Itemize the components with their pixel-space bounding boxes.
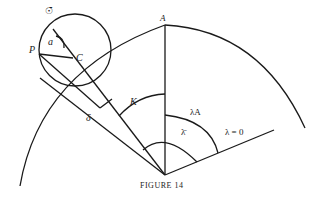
arc-K xyxy=(119,94,165,116)
lambdaA-label: λA xyxy=(190,108,201,117)
line-P-down xyxy=(39,54,100,108)
lambda-bar-label: λ̄ xyxy=(181,128,185,137)
C-label: C xyxy=(76,53,83,63)
P-label: P xyxy=(29,45,35,55)
sun-label: ☉̄ xyxy=(45,7,53,16)
arc-lambda-bar xyxy=(143,142,197,162)
small-circle xyxy=(39,14,111,86)
figure-caption: FIGURE 14 xyxy=(140,181,183,190)
diagram-canvas xyxy=(0,0,323,198)
lambda-zero-label: λ = 0 xyxy=(225,128,243,137)
a-label: a xyxy=(48,37,53,47)
angle-a-arc xyxy=(56,36,64,48)
outer-arc xyxy=(20,25,305,186)
A-label: A xyxy=(160,14,166,23)
line-PC xyxy=(39,54,73,58)
K-label: K xyxy=(130,97,137,107)
delta-label: δ xyxy=(86,113,91,123)
arc-lambdaA xyxy=(165,115,218,153)
